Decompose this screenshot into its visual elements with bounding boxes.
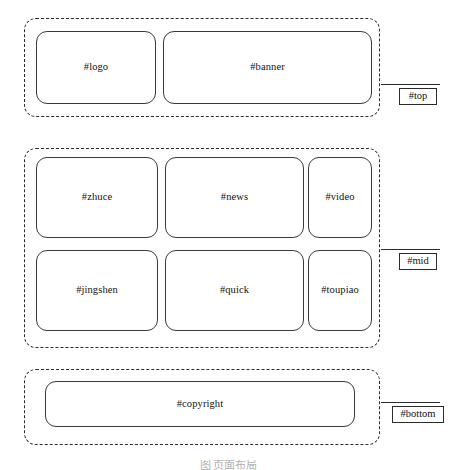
id-label-bottom: #bottom <box>392 406 444 423</box>
box-logo-label: #logo <box>84 62 108 73</box>
box-jingshen-label: #jingshen <box>76 285 118 296</box>
box-video: #video <box>308 157 372 238</box>
id-label-top-text: #top <box>409 91 428 102</box>
box-zhuce-label: #zhuce <box>82 192 112 203</box>
box-banner: #banner <box>163 31 372 104</box>
id-label-mid-text: #mid <box>407 256 429 267</box>
id-label-bottom-text: #bottom <box>400 409 435 420</box>
box-jingshen: #jingshen <box>36 250 158 331</box>
id-label-mid: #mid <box>399 253 437 270</box>
layout-wireframe-diagram: #logo #banner #top #zhuce #news #video #… <box>0 0 457 470</box>
box-quick-label: #quick <box>220 285 249 296</box>
box-banner-label: #banner <box>250 62 285 73</box>
box-logo: #logo <box>36 31 156 104</box>
figure-caption-text: 图 页面布局 <box>200 460 258 470</box>
box-news-label: #news <box>221 192 248 203</box>
box-video-label: #video <box>325 192 354 203</box>
box-copyright-label: #copyright <box>177 399 224 410</box>
box-news: #news <box>165 157 304 238</box>
box-quick: #quick <box>165 250 304 331</box>
box-copyright: #copyright <box>45 381 355 427</box>
box-zhuce: #zhuce <box>36 157 158 238</box>
box-toupiao-label: #toupiao <box>321 285 359 296</box>
leader-line-top <box>381 84 440 85</box>
id-label-top: #top <box>399 88 437 105</box>
figure-caption: 图 页面布局 <box>0 460 457 470</box>
box-toupiao: #toupiao <box>308 250 372 331</box>
leader-line-mid <box>381 249 440 250</box>
leader-line-bottom <box>381 402 440 403</box>
